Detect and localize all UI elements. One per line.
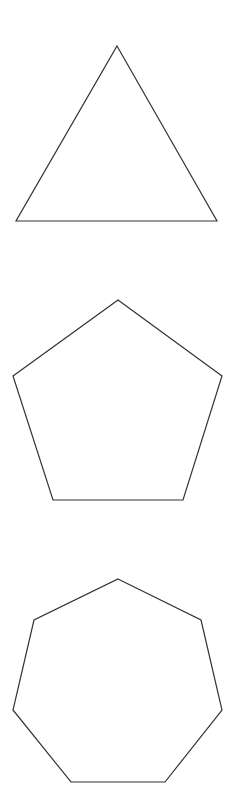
heptagon-shape [13,579,222,782]
triangle-shape [16,46,217,221]
pentagon-shape [13,300,222,500]
shapes-canvas [0,0,245,808]
